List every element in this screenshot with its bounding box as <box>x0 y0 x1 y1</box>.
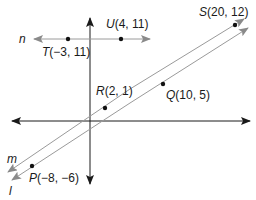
point-q <box>161 82 165 86</box>
labels: n m l T(−3, 11) U(4, 11) R(2, 1) Q(10, 5… <box>7 5 248 198</box>
point-p-label: P(−8, −6) <box>29 171 79 185</box>
coordinate-plane-diagram: n m l T(−3, 11) U(4, 11) R(2, 1) Q(10, 5… <box>0 0 256 200</box>
point-r <box>103 106 107 110</box>
line-m-label: m <box>7 152 17 166</box>
point-t <box>66 37 70 41</box>
axes <box>12 18 250 184</box>
point-t-label: T(−3, 11) <box>42 45 90 59</box>
point-p <box>30 164 34 168</box>
line-n-label: n <box>19 32 26 46</box>
point-q-label: Q(10, 5) <box>166 88 210 102</box>
line-l-label: l <box>9 184 12 198</box>
point-u <box>119 37 123 41</box>
point-s-label: S(20, 12) <box>199 5 248 19</box>
point-r-label: R(2, 1) <box>96 84 133 98</box>
point-u-label: U(4, 11) <box>106 17 148 31</box>
point-s <box>233 23 237 27</box>
